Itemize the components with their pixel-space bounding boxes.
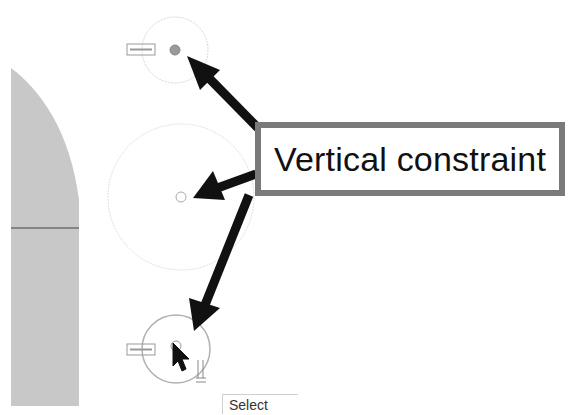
arrow-to-top-circle [187,56,258,128]
vertical-constraint-callout: Vertical constraint [255,122,565,196]
arrow-to-bottom-circle [189,195,249,331]
middle-center-point[interactable] [176,192,186,202]
select-tooltip: Select [222,394,298,414]
top-center-point[interactable] [170,45,180,55]
profile-shape [11,68,79,406]
vertical-constraint-icon[interactable] [127,44,155,55]
tooltip-label: Select [229,397,268,413]
vertical-constraint-icon[interactable] [127,344,155,355]
callout-label: Vertical constraint [274,140,546,179]
